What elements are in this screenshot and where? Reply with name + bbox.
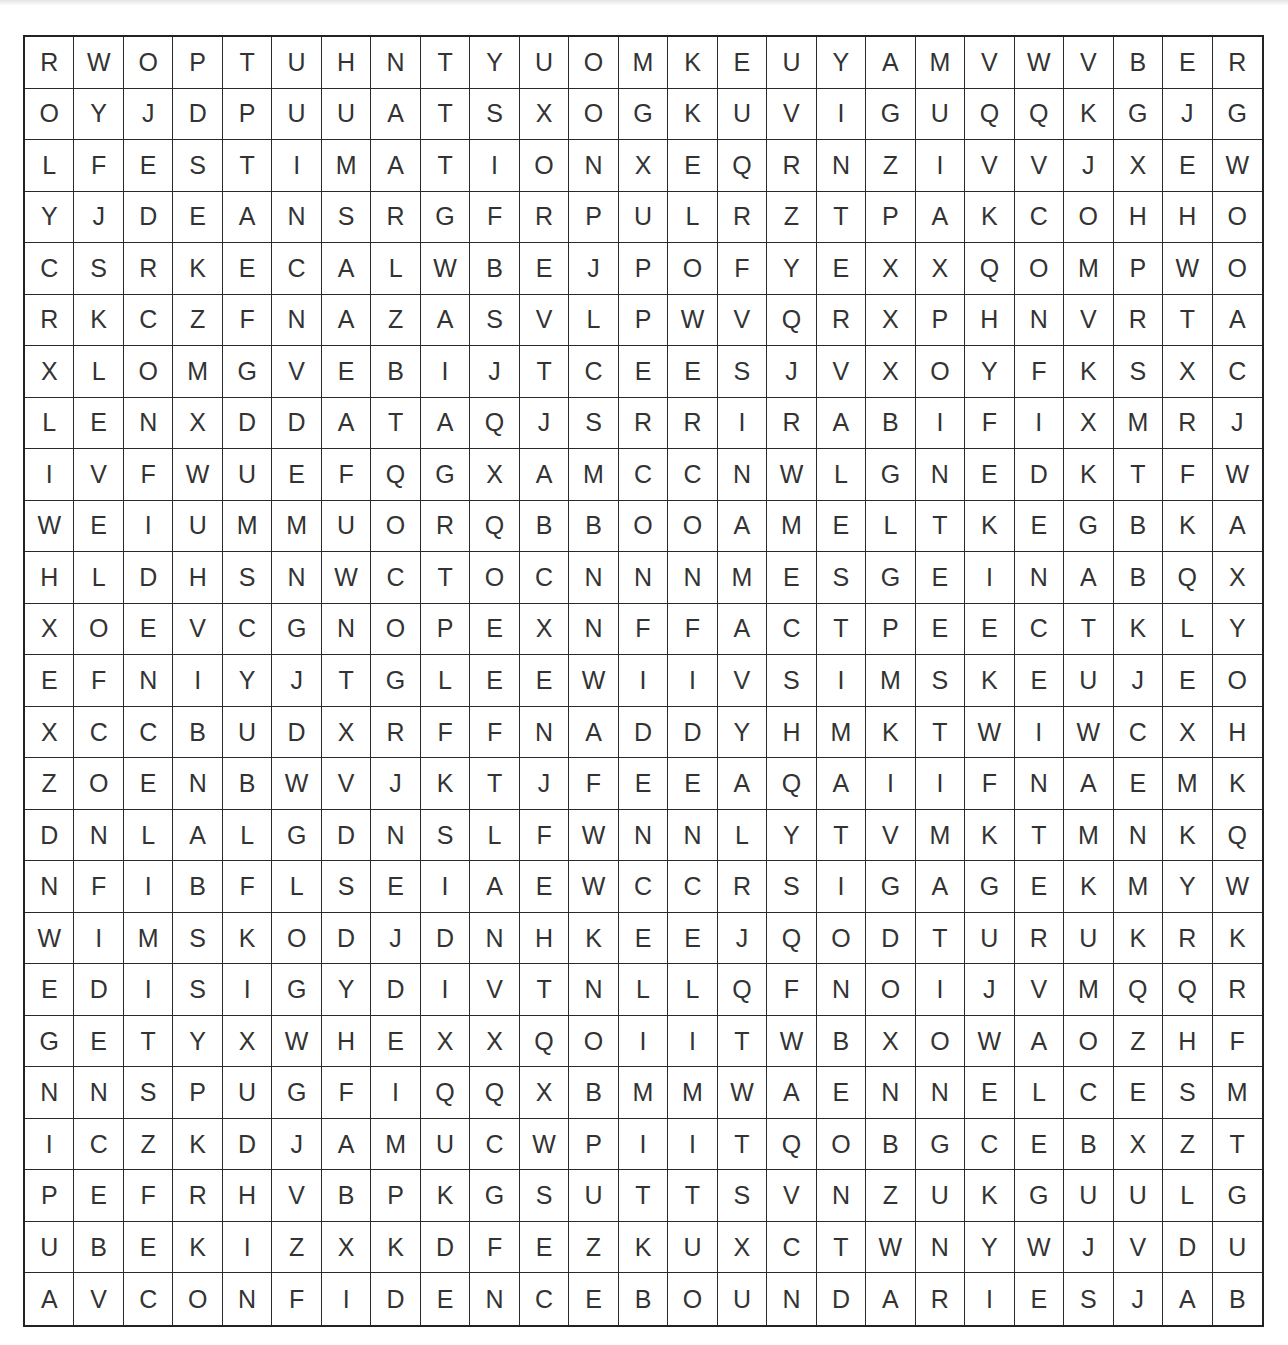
- grid-cell[interactable]: E: [74, 501, 123, 553]
- grid-cell[interactable]: V: [866, 810, 915, 862]
- grid-cell[interactable]: R: [718, 861, 767, 913]
- grid-cell[interactable]: H: [223, 1170, 272, 1222]
- grid-cell[interactable]: D: [1015, 449, 1064, 501]
- grid-cell[interactable]: I: [1015, 707, 1064, 759]
- grid-cell[interactable]: C: [1015, 604, 1064, 656]
- grid-cell[interactable]: G: [965, 861, 1014, 913]
- grid-cell[interactable]: A: [1163, 1273, 1212, 1325]
- grid-cell[interactable]: S: [520, 1170, 569, 1222]
- grid-cell[interactable]: K: [965, 1170, 1014, 1222]
- grid-cell[interactable]: G: [866, 861, 915, 913]
- grid-cell[interactable]: B: [817, 1016, 866, 1068]
- grid-cell[interactable]: O: [272, 913, 321, 965]
- grid-cell[interactable]: G: [470, 1170, 519, 1222]
- grid-cell[interactable]: R: [767, 140, 816, 192]
- grid-cell[interactable]: U: [322, 501, 371, 553]
- grid-cell[interactable]: A: [520, 449, 569, 501]
- grid-cell[interactable]: M: [866, 655, 915, 707]
- grid-cell[interactable]: A: [916, 861, 965, 913]
- grid-cell[interactable]: E: [272, 449, 321, 501]
- grid-cell[interactable]: E: [619, 913, 668, 965]
- grid-cell[interactable]: D: [371, 1273, 420, 1325]
- grid-cell[interactable]: I: [124, 861, 173, 913]
- grid-cell[interactable]: B: [1114, 37, 1163, 89]
- grid-cell[interactable]: Y: [223, 655, 272, 707]
- grid-cell[interactable]: F: [124, 1170, 173, 1222]
- grid-cell[interactable]: X: [718, 1222, 767, 1274]
- grid-cell[interactable]: D: [272, 707, 321, 759]
- grid-cell[interactable]: X: [866, 1016, 915, 1068]
- grid-cell[interactable]: W: [569, 655, 618, 707]
- grid-cell[interactable]: D: [223, 1119, 272, 1171]
- grid-cell[interactable]: O: [1213, 655, 1262, 707]
- grid-cell[interactable]: A: [421, 398, 470, 450]
- grid-cell[interactable]: F: [322, 1067, 371, 1119]
- grid-cell[interactable]: N: [916, 449, 965, 501]
- grid-cell[interactable]: K: [1213, 758, 1262, 810]
- grid-cell[interactable]: U: [718, 89, 767, 141]
- grid-cell[interactable]: L: [74, 552, 123, 604]
- grid-cell[interactable]: T: [322, 655, 371, 707]
- grid-cell[interactable]: I: [25, 449, 74, 501]
- grid-cell[interactable]: O: [916, 346, 965, 398]
- grid-cell[interactable]: Z: [25, 758, 74, 810]
- grid-cell[interactable]: D: [668, 707, 717, 759]
- grid-cell[interactable]: L: [866, 501, 915, 553]
- grid-cell[interactable]: M: [668, 1067, 717, 1119]
- grid-cell[interactable]: W: [1064, 707, 1113, 759]
- grid-cell[interactable]: A: [1015, 1016, 1064, 1068]
- grid-cell[interactable]: P: [25, 1170, 74, 1222]
- grid-cell[interactable]: F: [668, 604, 717, 656]
- grid-cell[interactable]: A: [866, 37, 915, 89]
- grid-cell[interactable]: O: [1064, 192, 1113, 244]
- grid-cell[interactable]: M: [1064, 243, 1113, 295]
- grid-cell[interactable]: U: [173, 501, 222, 553]
- grid-cell[interactable]: B: [371, 346, 420, 398]
- grid-cell[interactable]: I: [421, 861, 470, 913]
- grid-cell[interactable]: T: [520, 964, 569, 1016]
- grid-cell[interactable]: D: [223, 398, 272, 450]
- grid-cell[interactable]: L: [371, 243, 420, 295]
- grid-cell[interactable]: E: [569, 1273, 618, 1325]
- grid-cell[interactable]: V: [520, 295, 569, 347]
- grid-cell[interactable]: E: [1015, 1119, 1064, 1171]
- grid-cell[interactable]: C: [1015, 192, 1064, 244]
- grid-cell[interactable]: I: [866, 758, 915, 810]
- grid-cell[interactable]: A: [817, 398, 866, 450]
- grid-cell[interactable]: R: [371, 707, 420, 759]
- grid-cell[interactable]: W: [173, 449, 222, 501]
- grid-cell[interactable]: R: [916, 1273, 965, 1325]
- grid-cell[interactable]: G: [866, 89, 915, 141]
- grid-cell[interactable]: N: [272, 295, 321, 347]
- grid-cell[interactable]: E: [668, 913, 717, 965]
- grid-cell[interactable]: E: [124, 140, 173, 192]
- grid-cell[interactable]: U: [1064, 913, 1113, 965]
- grid-cell[interactable]: N: [520, 707, 569, 759]
- grid-cell[interactable]: K: [1163, 810, 1212, 862]
- grid-cell[interactable]: S: [74, 243, 123, 295]
- grid-cell[interactable]: L: [668, 192, 717, 244]
- grid-cell[interactable]: Q: [767, 295, 816, 347]
- grid-cell[interactable]: S: [470, 89, 519, 141]
- grid-cell[interactable]: U: [916, 89, 965, 141]
- grid-cell[interactable]: F: [965, 758, 1014, 810]
- grid-cell[interactable]: B: [520, 501, 569, 553]
- grid-cell[interactable]: O: [619, 501, 668, 553]
- grid-cell[interactable]: E: [916, 552, 965, 604]
- grid-cell[interactable]: O: [817, 913, 866, 965]
- grid-cell[interactable]: R: [1213, 964, 1262, 1016]
- grid-cell[interactable]: A: [322, 1119, 371, 1171]
- grid-cell[interactable]: C: [520, 1273, 569, 1325]
- grid-cell[interactable]: S: [569, 398, 618, 450]
- grid-cell[interactable]: G: [272, 604, 321, 656]
- grid-cell[interactable]: K: [173, 1222, 222, 1274]
- grid-cell[interactable]: G: [421, 449, 470, 501]
- grid-cell[interactable]: P: [866, 192, 915, 244]
- grid-cell[interactable]: U: [718, 1273, 767, 1325]
- grid-cell[interactable]: F: [520, 810, 569, 862]
- grid-cell[interactable]: O: [173, 1273, 222, 1325]
- grid-cell[interactable]: X: [520, 1067, 569, 1119]
- grid-cell[interactable]: E: [124, 1222, 173, 1274]
- grid-cell[interactable]: G: [1213, 1170, 1262, 1222]
- grid-cell[interactable]: I: [916, 140, 965, 192]
